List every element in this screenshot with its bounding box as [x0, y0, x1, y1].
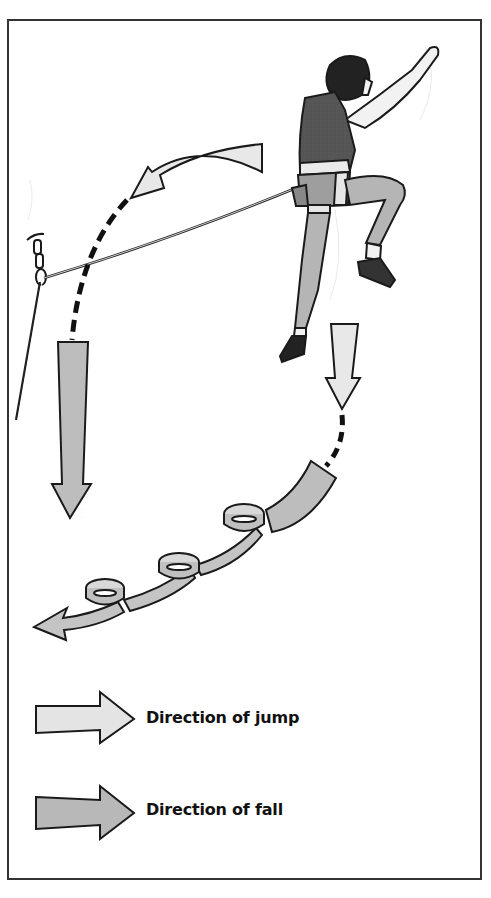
- legend-label-jump: Direction of jump: [146, 708, 299, 727]
- light-arrow: [36, 692, 134, 743]
- dark-arrow: [36, 786, 134, 839]
- spin-trajectory: [326, 415, 342, 466]
- bolt-quickdraw: [27, 234, 46, 285]
- rope-to-climber: [44, 188, 296, 278]
- jump-arrow-curved: [131, 144, 262, 198]
- illustration: [0, 0, 491, 898]
- climber-figure: [280, 47, 438, 362]
- pendulum-trajectory: [72, 200, 127, 340]
- legend-label-fall: Direction of fall: [146, 800, 283, 819]
- rope-down: [16, 282, 40, 420]
- jump-arrow-down: [326, 324, 360, 409]
